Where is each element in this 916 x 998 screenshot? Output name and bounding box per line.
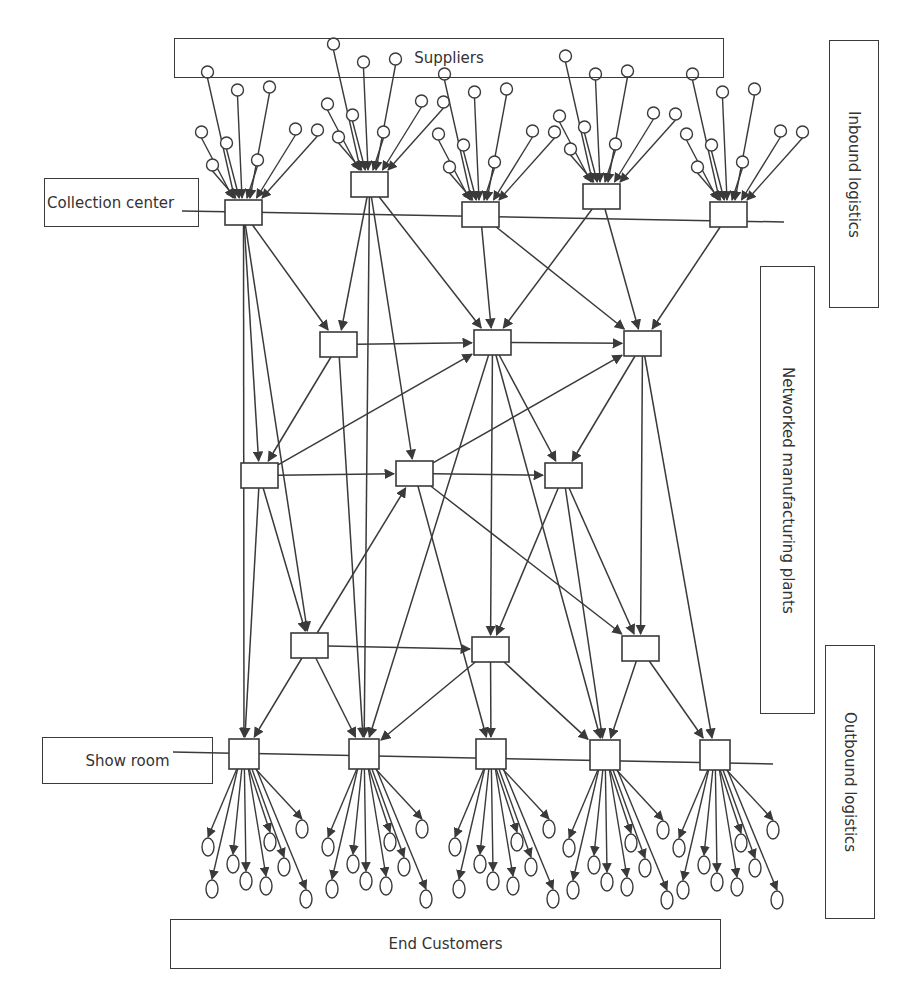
supplier-node-icon: [322, 98, 334, 110]
supplier-node-icon: [196, 126, 208, 138]
customer-node-icon: [731, 878, 743, 896]
edge-P3-P6: [572, 356, 635, 461]
network-nodes: [225, 172, 747, 770]
supplier-link: [373, 138, 384, 170]
customer-node-icon: [507, 877, 519, 895]
inbound-logistics-label: Inbound logistics: [845, 111, 863, 238]
customer-node-icon: [384, 833, 396, 851]
supplier-node-icon: [501, 83, 513, 95]
supplier-link: [339, 143, 362, 170]
customer-node-icon: [698, 856, 710, 874]
supplier-node-icon: [737, 156, 749, 168]
edge-P2-S4: [496, 355, 600, 738]
supplier-node-icon: [433, 128, 445, 140]
networked-plants-label: Networked manufacturing plants: [779, 367, 797, 614]
customer-node-icon: [543, 820, 555, 838]
customer-node-icon: [657, 821, 669, 839]
supplier-link: [364, 68, 369, 170]
edge-C3-P3: [496, 227, 624, 329]
plant-node-P4: [241, 463, 278, 488]
supplier-node-icon: [706, 139, 718, 151]
supplier-link: [475, 98, 480, 200]
customer-node-icon: [625, 834, 637, 852]
collection-center-node-C5: [710, 202, 747, 227]
edge-P3-P9: [641, 356, 643, 634]
customer-node-icon: [453, 880, 465, 898]
supplier-node-icon: [232, 84, 244, 96]
supplier-node-icon: [717, 86, 729, 98]
edge-P7-P8: [328, 646, 470, 649]
supplier-link: [571, 155, 594, 182]
supplier-node-icon: [378, 126, 390, 138]
edge-P7-S1: [254, 658, 302, 737]
end-customers-label: End Customers: [389, 935, 503, 953]
supplier-link: [596, 80, 601, 182]
customer-node-icon: [588, 856, 600, 874]
customer-node-icon: [525, 858, 537, 876]
edge-P3-S5: [645, 356, 712, 738]
show-room-node-S4: [590, 740, 620, 770]
customer-node-icon: [278, 858, 290, 876]
show-room-label-box: Show room: [42, 737, 213, 784]
supplier-link: [247, 166, 258, 198]
edge-P1-P2: [357, 343, 472, 344]
supplier-node-icon: [670, 108, 682, 120]
supplier-link: [723, 98, 728, 200]
edge-C4-P3: [605, 209, 638, 329]
edge-P2-P6: [499, 355, 556, 461]
edge-P9-S4: [611, 661, 637, 738]
customer-node-icon: [264, 833, 276, 851]
supplier-node-icon: [489, 156, 501, 168]
supplier-node-icon: [527, 125, 539, 137]
edge-P1-P4: [268, 357, 331, 461]
supplier-link: [213, 171, 236, 198]
supplier-node-icon: [290, 123, 302, 135]
collection-center-label-box: Collection center: [44, 178, 199, 227]
customer-node-icon: [567, 881, 579, 899]
supplier-link: [484, 168, 495, 200]
edge-P6-P9: [569, 488, 634, 634]
edge-P5-P3: [433, 355, 622, 463]
edge-P8-S4: [504, 662, 588, 739]
plant-node-P8: [472, 637, 509, 662]
customer-node-icon: [749, 859, 761, 877]
supplier-node-icon: [333, 131, 345, 143]
customer-node-icon: [380, 877, 392, 895]
customer-node-icon: [563, 839, 575, 857]
supplier-link: [605, 150, 616, 182]
customer-node-icon: [767, 821, 779, 839]
supplier-node-icon: [221, 137, 233, 149]
customer-node-icon: [347, 855, 359, 873]
customer-node-icon: [511, 833, 523, 851]
supplier-node-icon: [458, 139, 470, 151]
customer-link: [715, 770, 717, 872]
edge-P4-P2: [278, 354, 472, 465]
edge-P8-S2: [381, 662, 475, 740]
edge-P2-P8: [491, 355, 493, 635]
supplier-node-icon: [554, 110, 566, 122]
customer-node-icon: [677, 881, 689, 899]
plant-node-P6: [545, 463, 582, 488]
customer-node-icon: [260, 877, 272, 895]
plant-node-P9: [622, 636, 659, 661]
edge-P5-P6: [433, 474, 543, 475]
supplier-node-icon: [347, 109, 359, 121]
customer-node-icon: [296, 820, 308, 838]
edge-P4-P7: [263, 488, 305, 631]
outbound-logistics-label-box: Outbound logistics: [825, 645, 875, 919]
edge-C4-P2: [503, 209, 592, 328]
customer-link: [569, 770, 598, 838]
supplier-and-customer-fans: [196, 38, 809, 909]
edge-C2-P1: [341, 197, 367, 330]
edge-C5-P3: [652, 227, 720, 329]
show-room-node-S5: [700, 740, 730, 770]
edge-P5-S3: [418, 486, 486, 737]
supplier-node-icon: [648, 107, 660, 119]
customer-node-icon: [360, 872, 372, 890]
supplier-node-icon: [312, 124, 324, 136]
customer-node-icon: [322, 838, 334, 856]
plant-node-P3: [624, 331, 661, 356]
supplier-node-icon: [252, 154, 264, 166]
supplier-link: [698, 173, 721, 200]
inbound-logistics-label-box: Inbound logistics: [829, 40, 879, 308]
